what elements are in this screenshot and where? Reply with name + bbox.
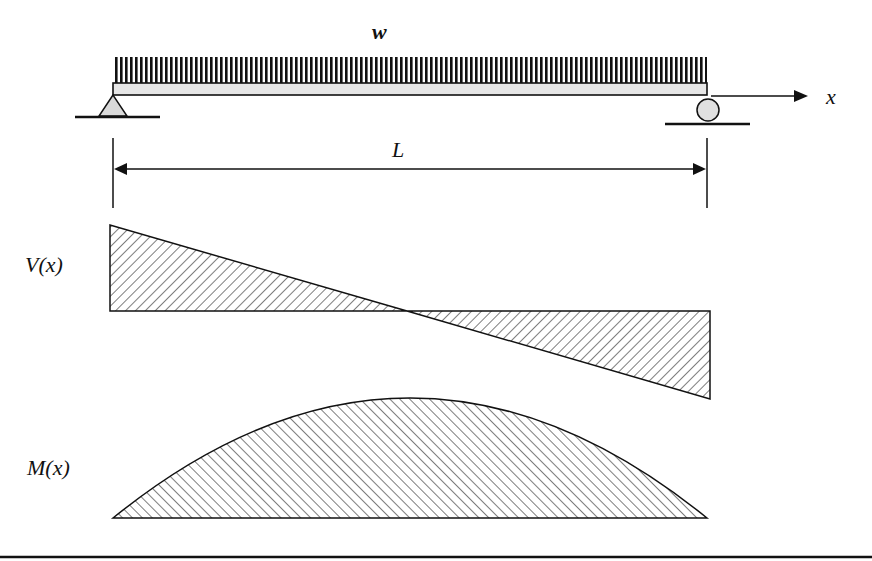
shear-diagram [110, 225, 710, 399]
roller-support-icon [665, 99, 750, 124]
pin-support-icon [75, 95, 160, 117]
shear-label: V(x) [25, 252, 63, 277]
moment-diagram [113, 398, 707, 518]
arrow-right-icon [693, 163, 706, 175]
x-axis-label: x [825, 84, 836, 109]
span-label: L [391, 137, 404, 162]
beam-diagram: w x L V(x) M(x) [0, 0, 872, 561]
moment-label: M(x) [26, 455, 70, 480]
load-label: w [372, 19, 387, 44]
x-axis-arrow-icon [711, 90, 808, 102]
distributed-load [113, 57, 707, 83]
beam [113, 83, 707, 95]
span-dimension [113, 138, 707, 208]
arrow-left-icon [114, 163, 127, 175]
